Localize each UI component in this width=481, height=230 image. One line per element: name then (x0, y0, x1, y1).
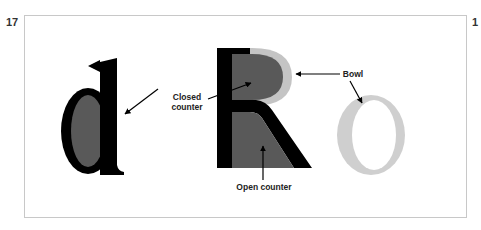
d-serif-flag (88, 60, 100, 72)
d-stem (100, 58, 124, 175)
d-closed-counter (71, 95, 105, 167)
label-open-counter: Open counter (228, 182, 300, 192)
r-bowl-black-top (232, 48, 250, 54)
arrow-closed-counter-d (125, 89, 158, 114)
label-closed-counter: Closed counter (162, 92, 212, 112)
letter-r (217, 48, 312, 168)
label-bowl: Bowl (340, 69, 366, 79)
letter-d (61, 58, 124, 175)
r-stem (217, 48, 232, 168)
o-counter (352, 100, 396, 170)
label-closed-counter-line1: Closed (162, 92, 212, 102)
label-closed-counter-line2: counter (162, 102, 212, 112)
r-closed-counter (232, 54, 283, 100)
typography-diagram (0, 0, 481, 230)
letter-o (337, 95, 405, 175)
